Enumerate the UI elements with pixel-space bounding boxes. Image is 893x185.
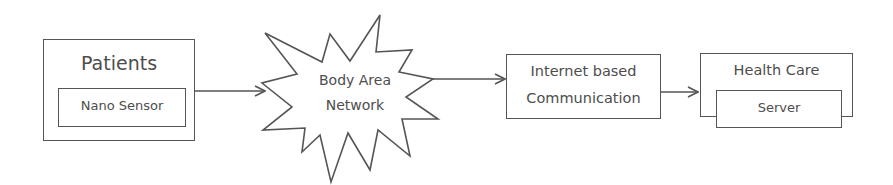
server-label: Server <box>716 100 842 115</box>
internet-label-line2: Communication <box>506 90 661 106</box>
patients-label: Patients <box>43 52 195 74</box>
ban-label-line1: Body Area <box>300 72 410 88</box>
internet-label-line1: Internet based <box>506 63 661 79</box>
nano-sensor-label: Nano Sensor <box>58 98 186 113</box>
ban-label-line2: Network <box>300 97 410 113</box>
health-care-label: Health Care <box>700 62 853 78</box>
